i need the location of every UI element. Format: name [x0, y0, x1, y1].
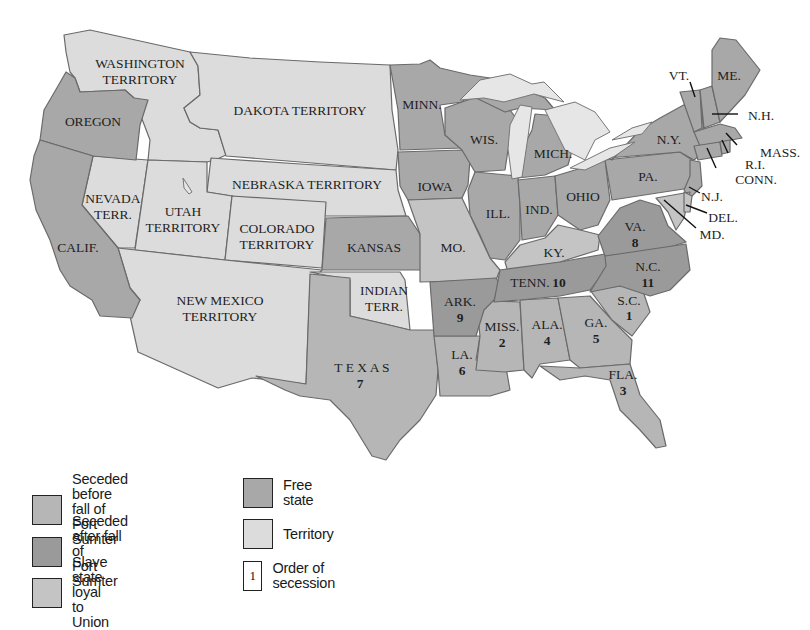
order-texas: 7: [357, 376, 364, 391]
legend-swatch-free-state: [243, 478, 273, 508]
label-michigan: MICH.: [534, 146, 573, 161]
legend-swatch-territory: [243, 519, 273, 549]
legend-item-slave-loyal: Slave state loyal to Union: [32, 555, 109, 630]
legend-label: Order of secession: [272, 561, 345, 591]
label-minnesota: MINN.: [402, 97, 441, 112]
label-delaware: DEL.: [708, 210, 738, 225]
label-rhode-island: R.I.: [745, 157, 765, 172]
label-maine: ME.: [717, 68, 741, 83]
label-new-jersey: N.J.: [701, 189, 723, 204]
label-connecticut: CONN.: [735, 172, 777, 187]
label-california: CALIF.: [57, 240, 98, 255]
label-pennsylvania: PA.: [638, 169, 657, 184]
region-delaware[interactable]: [684, 192, 692, 212]
label-alabama: ALA.: [531, 317, 562, 332]
label-illinois: ILL.: [486, 206, 510, 221]
label-north-carolina: N.C.: [635, 259, 661, 274]
order-florida: 3: [620, 383, 627, 398]
order-mississippi: 2: [499, 335, 506, 350]
label-nebraska-territory: NEBRASKA TERRITORY: [232, 177, 382, 192]
legend-item-order: 1 Order of secession: [243, 561, 346, 591]
label-florida: FLA.: [609, 367, 638, 382]
label-missouri: MO.: [440, 240, 465, 255]
order-georgia: 5: [593, 331, 600, 346]
legend-label: Slave state loyal to Union: [72, 555, 109, 630]
label-ohio: OHIO: [566, 189, 600, 204]
region-florida[interactable]: [540, 364, 666, 448]
legend-item-territory: Territory: [243, 519, 334, 549]
legend-label: Territory: [283, 527, 334, 542]
label-iowa: IOWA: [417, 179, 452, 194]
label-mississippi: MISS.: [485, 319, 520, 334]
label-indiana: IND.: [525, 202, 552, 217]
label-kansas: KANSAS: [347, 240, 401, 255]
label-washington-territory: WASHINGTONTERRITORY: [95, 56, 185, 87]
legend-swatch-slave-loyal: [32, 578, 62, 608]
label-dakota-territory: DAKOTA TERRITORY: [233, 103, 366, 118]
label-new-hampshire: N.H.: [748, 108, 774, 123]
label-arkansas: ARK.: [444, 294, 476, 309]
label-indian-territory: INDIANTERR.: [360, 283, 408, 314]
legend-item-free-state: Free state: [243, 478, 313, 508]
order-tennessee: 10: [552, 275, 566, 290]
label-oregon: OREGON: [65, 114, 121, 129]
legend-label: Free state: [283, 478, 313, 508]
label-massachusetts: MASS.: [760, 145, 800, 160]
label-louisiana: LA.: [451, 347, 472, 362]
label-virginia: VA.: [624, 219, 645, 234]
order-alabama: 4: [544, 333, 551, 348]
order-louisiana: 6: [459, 363, 466, 378]
label-georgia: GA.: [585, 315, 608, 330]
legend-swatch-order: 1: [243, 561, 262, 591]
label-kentucky: KY.: [543, 245, 564, 260]
order-arkansas: 9: [457, 310, 464, 325]
label-tennessee: TENN.: [510, 275, 549, 290]
label-colorado-territory: COLORADOTERRITORY: [239, 221, 314, 252]
order-south-carolina: 1: [626, 308, 633, 323]
label-texas: T E X A S: [334, 360, 389, 375]
label-south-carolina: S.C.: [617, 293, 640, 308]
label-vermont: VT.: [669, 68, 689, 83]
order-north-carolina: 11: [642, 275, 655, 290]
label-new-mexico-territory: NEW MEXICOTERRITORY: [176, 293, 263, 324]
label-wisconsin: WIS.: [470, 132, 498, 147]
legend-label: Seceded before fall of: [72, 472, 128, 517]
label-new-york: N.Y.: [657, 132, 682, 147]
order-virginia: 8: [632, 235, 639, 250]
label-maryland: MD.: [699, 227, 724, 242]
legend-label: Seceded after fall of: [72, 514, 128, 559]
